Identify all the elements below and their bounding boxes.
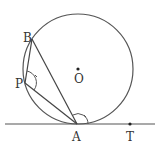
angle-mark-a-tick: [84, 115, 86, 117]
label-o: O: [74, 72, 84, 86]
point-o: [76, 67, 79, 70]
angle-mark-p: [27, 71, 36, 90]
point-t: [128, 122, 131, 125]
label-p: P: [15, 77, 23, 91]
segment-pa: [25, 83, 77, 124]
label-b: B: [23, 31, 32, 45]
label-a: A: [71, 130, 81, 144]
label-t: T: [126, 130, 134, 144]
geometry-diagram: B P O A T: [0, 0, 160, 151]
segment-ba: [32, 39, 77, 124]
